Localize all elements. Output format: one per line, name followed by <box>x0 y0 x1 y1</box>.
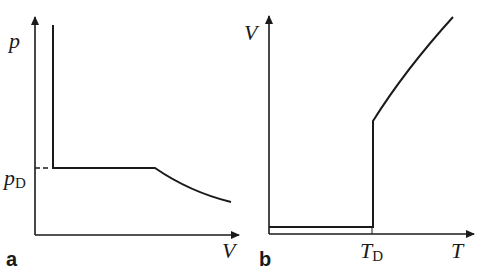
figure: p pD V a V TD T b <box>0 0 477 272</box>
pd-level-label: pD <box>2 165 26 191</box>
panel-label-a: a <box>6 248 18 270</box>
y-axis-label-b: V <box>244 20 260 45</box>
panel-b: V TD T b <box>244 16 474 270</box>
panel-label-b: b <box>259 248 271 270</box>
vt-curve <box>269 17 453 227</box>
panel-a: p pD V a <box>2 17 239 270</box>
pv-isotherm-curve <box>53 25 231 202</box>
y-axis-label-a: p <box>7 28 20 53</box>
x-axis-label-b: T <box>451 238 465 263</box>
x-axis-label-a: V <box>222 238 238 263</box>
td-level-label: TD <box>360 238 383 264</box>
